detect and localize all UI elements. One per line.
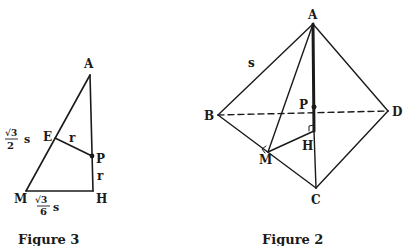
label-P-fig3: P <box>96 152 105 166</box>
edge-AD <box>313 24 388 111</box>
label-P-fig2: P <box>299 98 308 112</box>
label-AM-variable: s <box>24 133 30 146</box>
figure-3-caption: Figure 3 <box>18 232 79 246</box>
segment-HC <box>314 131 316 188</box>
label-D-fig2: D <box>392 105 402 119</box>
label-MH-variable: s <box>53 201 59 214</box>
label-AM-numerator: √3 <box>5 128 17 138</box>
label-H-fig3: H <box>96 192 107 206</box>
point-P-dot-fig2 <box>312 105 316 109</box>
label-E-fig3: E <box>43 130 52 144</box>
diagram-canvas: A E r P r H M √3 2 s √3 6 s Figure 3 A <box>0 0 409 246</box>
label-s-AB: s <box>248 56 255 70</box>
label-B-fig2: B <box>204 109 214 123</box>
figure-3 <box>26 75 94 191</box>
label-MH-denominator: 6 <box>40 206 47 217</box>
point-P-dot <box>90 154 93 157</box>
label-H-fig2: H <box>302 139 313 153</box>
label-M-fig3: M <box>14 192 27 206</box>
label-C-fig2: C <box>311 193 321 207</box>
edge-DC <box>316 111 388 188</box>
label-AM-denominator: 2 <box>7 140 14 151</box>
label-r-EP: r <box>69 131 76 145</box>
label-MH-numerator: √3 <box>35 195 47 205</box>
segment-AH <box>90 75 93 191</box>
label-r-PH: r <box>97 169 104 183</box>
altitude-AH <box>313 24 314 131</box>
figure-2-caption: Figure 2 <box>262 232 323 246</box>
segment-AM <box>26 75 90 191</box>
label-A-fig2: A <box>307 8 318 22</box>
label-A-fig3: A <box>83 57 94 71</box>
label-M-fig2: M <box>259 153 272 167</box>
median-AM <box>268 24 313 152</box>
